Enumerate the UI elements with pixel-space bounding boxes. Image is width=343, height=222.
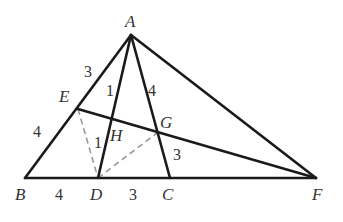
length-label-AG: 4	[148, 82, 156, 99]
segment-AF	[131, 35, 316, 178]
length-label-AH: 1	[106, 82, 114, 99]
point-label-A: A	[124, 12, 136, 31]
point-label-B: B	[15, 185, 26, 204]
point-label-D: D	[89, 185, 103, 204]
length-label-GC: 3	[173, 146, 181, 163]
length-label-BD: 4	[55, 186, 63, 203]
point-label-C: C	[162, 185, 174, 204]
point-label-E: E	[58, 87, 70, 106]
length-label-HD: 1	[94, 134, 102, 151]
point-label-G: G	[160, 113, 172, 132]
point-label-F: F	[311, 185, 323, 204]
point-label-H: H	[109, 126, 124, 145]
geometry-diagram: A B C D E F G H 3 4 1 1 4 3 4 3	[0, 0, 343, 222]
segment-AC	[131, 35, 170, 178]
length-label-EB: 4	[33, 123, 41, 140]
length-label-DC: 3	[129, 186, 137, 203]
length-label-AE: 3	[84, 63, 92, 80]
